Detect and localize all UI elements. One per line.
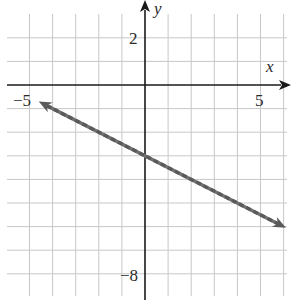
y-tick-neg8: −8 [120,266,138,285]
y-axis-label: y [152,0,162,18]
x-axis-label: x [265,57,274,76]
axes [7,0,291,300]
x-tick-5: 5 [255,91,264,110]
y-tick-2: 2 [129,29,138,48]
x-tick-neg5: −5 [13,91,31,110]
coordinate-plane: x y −5 5 2 −8 [0,0,291,308]
